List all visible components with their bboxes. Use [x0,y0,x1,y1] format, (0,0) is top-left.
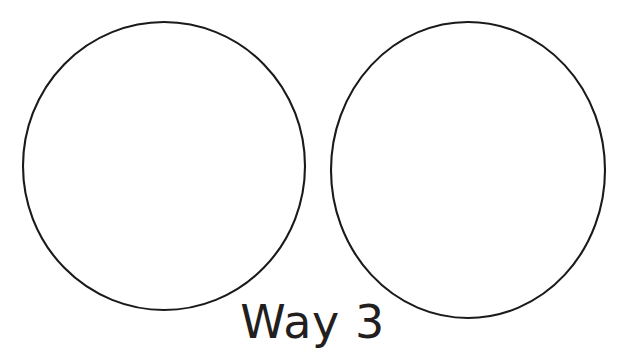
worksheet-canvas: Way 3 [0,0,625,353]
left-circle-outline[interactable] [23,22,305,310]
right-circle-outline[interactable] [331,22,605,318]
caption-label: Way 3 [0,296,625,348]
